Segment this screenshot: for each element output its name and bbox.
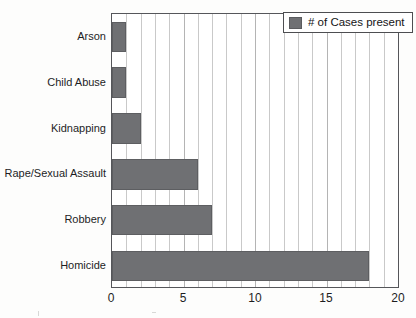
scan-artifact	[152, 312, 156, 313]
y-axis-label-child-abuse: Child Abuse	[47, 76, 106, 87]
x-axis-tick-labels: 0 5 10 15 20	[111, 292, 399, 312]
legend-color-swatch	[289, 17, 302, 29]
bar-child-abuse[interactable]	[112, 67, 126, 98]
y-axis-label-rape-sexual-assault: Rape/Sexual Assault	[4, 168, 106, 179]
bar-rape-sexual-assault[interactable]	[112, 159, 198, 190]
x-tick-0: 0	[108, 292, 115, 304]
scan-artifact	[38, 311, 39, 316]
y-axis-category-labels: Arson Child Abuse Kidnapping Rape/Sexual…	[0, 13, 106, 288]
bar-homicide[interactable]	[112, 251, 369, 282]
chart-screenshot: Arson Child Abuse Kidnapping Rape/Sexual…	[0, 0, 416, 318]
y-axis-label-arson: Arson	[77, 30, 106, 41]
legend[interactable]: # of Cases present	[283, 12, 413, 33]
x-tick-15: 15	[319, 292, 332, 304]
x-tick-20: 20	[391, 292, 404, 304]
bar-robbery[interactable]	[112, 205, 212, 236]
x-tick-5: 5	[180, 292, 187, 304]
legend-entry-label: # of Cases present	[308, 17, 405, 29]
bar-kidnapping[interactable]	[112, 113, 141, 144]
bars-layer	[112, 14, 398, 287]
y-axis-label-kidnapping: Kidnapping	[51, 122, 106, 133]
y-axis-label-robbery: Robbery	[64, 214, 106, 225]
x-tick-10: 10	[248, 292, 261, 304]
plot-area	[111, 13, 399, 288]
bar-arson[interactable]	[112, 22, 126, 53]
y-axis-label-homicide: Homicide	[60, 260, 106, 271]
